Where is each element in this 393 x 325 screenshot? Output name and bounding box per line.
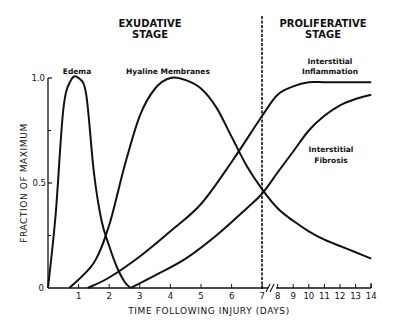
x-tick-label: 4: [168, 291, 173, 301]
x-tick-label: 3: [137, 291, 142, 301]
x-tick-label: 12: [335, 291, 346, 301]
y-tick-label-05: 0.5: [32, 178, 46, 188]
x-tick-label: 8: [275, 291, 280, 301]
series-line-edema: [48, 76, 131, 288]
x-tick-label: 9: [290, 291, 295, 301]
inflammation-label-2: Inflammation: [302, 67, 358, 76]
x-tick-label: 2: [106, 291, 111, 301]
x-tick-label: 7: [259, 291, 264, 301]
series-line-interstitial-fibrosis: [131, 95, 372, 288]
x-tick-label: 10: [303, 291, 314, 301]
exudative-stage-label-1: EXUDATIVE: [118, 18, 181, 29]
y-axis-title: FRACTION OF MAXIMUM: [19, 123, 29, 243]
chart-figure: EXUDATIVE STAGE PROLIFERATIVE STAGE 1.0 …: [0, 0, 393, 325]
y-tick-label-0: 0: [39, 283, 44, 293]
x-tick-label: 13: [350, 291, 361, 301]
edema-label: Edema: [63, 67, 91, 76]
fibrosis-label-2: Fibrosis: [314, 156, 348, 165]
proliferative-stage-label-1: PROLIFERATIVE: [279, 18, 366, 29]
x-tick-label: 14: [366, 291, 377, 301]
series-line-hyaline-membranes: [69, 77, 371, 288]
x-tick-label: 1: [76, 291, 81, 301]
y-tick-label-1: 1.0: [31, 73, 45, 83]
y-axis: 1.0 0.5 0 FRACTION OF MAXIMUM: [19, 73, 52, 293]
hyaline-membranes-label: Hyaline Membranes: [126, 67, 210, 76]
x-tick-label: 11: [319, 291, 330, 301]
proliferative-stage-label-2: STAGE: [305, 29, 341, 40]
x-axis-title: TIME FOLLOWING INJURY (DAYS): [127, 306, 290, 316]
x-axis: 1234567891011121314 TIME FOLLOWING INJUR…: [48, 283, 377, 316]
exudative-stage-label-2: STAGE: [132, 29, 168, 40]
inflammation-label-1: Interstitial: [308, 57, 353, 66]
fibrosis-label-1: Interstitial: [309, 145, 354, 154]
x-tick-label: 5: [198, 291, 203, 301]
series-curves: [48, 76, 371, 288]
x-tick-label: 6: [229, 291, 234, 301]
